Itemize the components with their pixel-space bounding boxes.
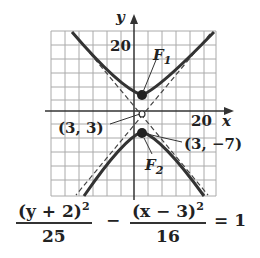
center-label: (3, 3) xyxy=(58,121,104,136)
term1-fraction: (y + 2)2 25 xyxy=(16,200,92,246)
y-axis-arrow-icon xyxy=(130,14,138,24)
y-axis-label: y xyxy=(116,10,125,25)
focus2-label: F2 xyxy=(145,158,163,176)
vertex-label: (3, −7) xyxy=(184,137,242,152)
focus2-point xyxy=(137,128,147,138)
focus1-point xyxy=(137,90,147,100)
x-axis-label: x xyxy=(222,114,231,129)
term2-fraction: (x − 3)2 16 xyxy=(130,200,206,246)
equals-one: = 1 xyxy=(214,210,246,230)
hyperbola-graph xyxy=(0,0,260,200)
y-tick-label: 20 xyxy=(110,39,131,54)
hyperbola-equation: (y + 2)2 25 − (x − 3)2 16 = 1 xyxy=(14,200,254,256)
x-tick-label: 20 xyxy=(191,114,212,129)
focus1-label: F1 xyxy=(153,48,171,66)
minus-sign: − xyxy=(106,210,120,230)
center-leader xyxy=(110,114,140,124)
